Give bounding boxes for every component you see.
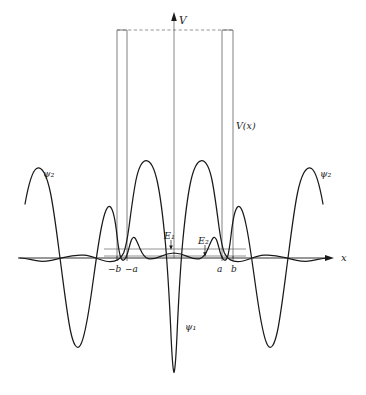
potential-curve-label: V(x)	[236, 120, 256, 131]
tick-label-minus-b: −b	[108, 264, 122, 274]
psi1-label: ψ₁	[185, 321, 196, 332]
labels-group: V x V(x) ψ₁ ψ₂ ψ₂ E₁ E₂ −b −a a b	[43, 14, 347, 332]
psi2-label-right: ψ₂	[320, 168, 331, 179]
potential-barriers-group	[117, 30, 233, 258]
tick-label-b: b	[231, 264, 237, 274]
x-axis-ticks-group	[117, 256, 233, 261]
x-axis-label: x	[341, 252, 347, 263]
potential-barrier-right	[222, 30, 233, 258]
quantum-double-well-figure: V x V(x) ψ₁ ψ₂ ψ₂ E₁ E₂ −b −a a b	[0, 0, 366, 395]
y-axis-arrowhead	[171, 12, 177, 21]
y-axis-label: V	[179, 14, 188, 26]
tick-label-minus-a: −a	[125, 264, 138, 274]
axes-group	[18, 12, 334, 261]
psi2-label-left: ψ₂	[43, 168, 54, 179]
energy-label-E2: E₂	[197, 235, 209, 246]
tick-label-a: a	[217, 264, 222, 274]
energy-label-E1: E₁	[163, 230, 175, 241]
potential-barrier-left	[117, 30, 127, 258]
